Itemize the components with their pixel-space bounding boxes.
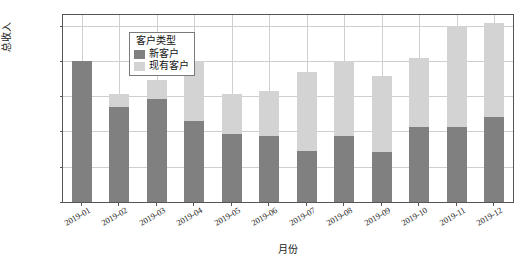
bar-segment[interactable] [222,94,242,134]
bar-column[interactable] [297,15,317,202]
legend-entries: 新客户现有客户 [134,48,189,72]
legend-entry-label: 现有客户 [149,60,189,72]
bar-segment[interactable] [484,117,504,202]
bar-segment[interactable] [409,127,429,202]
y-axis-label: 总收入 [0,22,13,52]
legend: 客户类型 新客户现有客户 [129,32,195,76]
bar-segment[interactable] [259,91,279,135]
x-axis-tick-mark [343,203,344,206]
bar-segment[interactable] [184,121,204,202]
x-axis-tick-mark [156,203,157,206]
bar-segment[interactable] [109,94,129,107]
legend-title: 客户类型 [136,35,189,47]
legend-swatch-icon [134,50,145,59]
bar-column[interactable] [222,15,242,202]
x-axis: 2019-012019-022019-032019-042019-052019-… [62,203,514,253]
bar-segment[interactable] [297,151,317,202]
bar-segment[interactable] [334,136,354,202]
bar-segment[interactable] [334,61,354,135]
bar-segment[interactable] [447,26,467,127]
bar-segment[interactable] [222,134,242,202]
x-axis-tick-mark [381,203,382,206]
x-axis-label: 月份 [62,241,514,256]
x-axis-tick-mark [81,203,82,206]
legend-entry[interactable]: 现有客户 [134,60,189,72]
bar-column[interactable] [259,15,279,202]
chart-figure: 总收入 0100000200000300000400000500000 客户类型… [0,0,531,261]
bar-segment[interactable] [409,58,429,127]
x-axis-tick-mark [268,203,269,206]
x-axis-tick-mark [118,203,119,206]
legend-swatch-icon [134,62,145,71]
bar-segment[interactable] [297,72,317,151]
bar-column[interactable] [409,15,429,202]
bar-column[interactable] [447,15,467,202]
bar-segment[interactable] [447,127,467,202]
x-axis-tick-mark [493,203,494,206]
x-axis-tick-mark [306,203,307,206]
bar-column[interactable] [334,15,354,202]
bar-column[interactable] [109,15,129,202]
bar-segment[interactable] [372,76,392,151]
bar-segment[interactable] [109,107,129,202]
bar-segment[interactable] [147,80,167,99]
x-axis-tick-mark [418,203,419,206]
bar-segment[interactable] [72,61,92,202]
x-axis-tick-mark [193,203,194,206]
x-axis-tick-mark [231,203,232,206]
bar-column[interactable] [372,15,392,202]
bar-column[interactable] [72,15,92,202]
bar-segment[interactable] [147,99,167,202]
bar-segment[interactable] [484,23,504,118]
legend-entry[interactable]: 新客户 [134,48,189,60]
bar-column[interactable] [484,15,504,202]
x-axis-tick-mark [456,203,457,206]
bar-segment[interactable] [372,152,392,202]
plot-area: 0100000200000300000400000500000 客户类型 新客户… [62,14,514,203]
bar-segment[interactable] [259,136,279,202]
legend-entry-label: 新客户 [149,48,179,60]
